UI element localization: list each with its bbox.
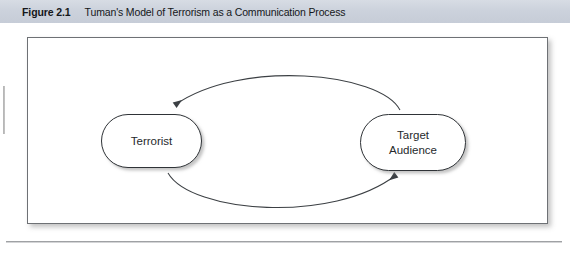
figure-header: Figure 2.1 Tuman's Model of Terrorism as… bbox=[0, 0, 570, 23]
connector-audience-to-terrorist bbox=[175, 76, 400, 110]
diagram-frame: Terrorist Target Audience bbox=[27, 37, 548, 224]
bottom-divider bbox=[6, 241, 562, 243]
node-target-audience-line1: Target bbox=[397, 129, 429, 141]
node-terrorist: Terrorist bbox=[101, 114, 202, 168]
node-target-audience-line2: Audience bbox=[389, 144, 437, 156]
figure-number-label: Figure 2.1 bbox=[22, 6, 71, 18]
left-margin-rule bbox=[3, 86, 5, 134]
node-target-audience-label: Target Audience bbox=[389, 128, 437, 157]
figure-title: Tuman's Model of Terrorism as a Communic… bbox=[85, 6, 346, 18]
connector-terrorist-to-audience bbox=[168, 173, 396, 208]
node-target-audience: Target Audience bbox=[360, 114, 466, 171]
node-terrorist-label: Terrorist bbox=[131, 135, 173, 147]
